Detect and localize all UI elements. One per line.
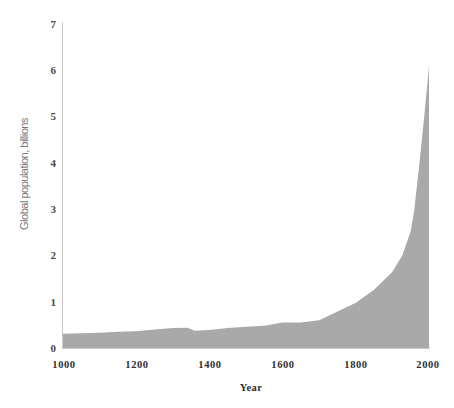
plot-area <box>63 24 429 348</box>
x-tick-1600: 1600 <box>271 360 294 371</box>
x-axis-tick-labels: 1000 1200 1400 1600 1800 2000 <box>0 360 454 376</box>
y-axis-title: Global population, billions <box>18 84 30 264</box>
x-tick-1400: 1400 <box>198 360 221 371</box>
y-tick-7: 7 <box>2 19 56 30</box>
area-fill-path <box>63 66 429 348</box>
population-area-chart: 7 6 5 4 3 2 1 0 1000 1200 1400 1600 1800… <box>0 0 454 408</box>
x-tick-1000: 1000 <box>52 360 75 371</box>
y-tick-6: 6 <box>2 65 56 76</box>
x-axis-line <box>62 348 430 349</box>
x-tick-1200: 1200 <box>125 360 148 371</box>
y-tick-1: 1 <box>2 297 56 308</box>
y-tick-0: 0 <box>2 343 56 354</box>
population-area-series <box>63 24 429 348</box>
x-axis-title: Year <box>0 382 454 393</box>
x-tick-1800: 1800 <box>344 360 367 371</box>
x-tick-2000: 2000 <box>416 360 439 371</box>
